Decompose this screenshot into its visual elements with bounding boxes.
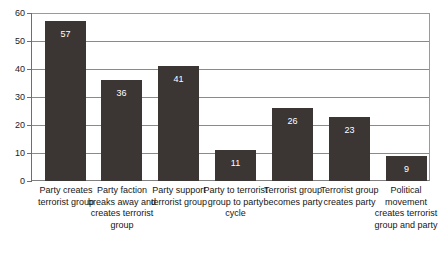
y-axis-label-10: 10 <box>0 149 25 158</box>
bar-5[interactable]: 23 <box>329 117 370 181</box>
bar-4[interactable]: 26 <box>272 108 313 181</box>
bar-0[interactable]: 57 <box>45 21 86 181</box>
x-axis-label-6: Political movement creates terrorist gro… <box>373 185 439 231</box>
y-tick-0 <box>27 181 31 182</box>
y-axis-label-0: 0 <box>0 177 25 186</box>
bar-value-5: 23 <box>329 126 370 135</box>
bar-value-1: 36 <box>101 89 142 98</box>
bar-value-3: 11 <box>215 159 256 168</box>
bar-value-0: 57 <box>45 30 86 39</box>
y-axis-label-20: 20 <box>0 121 25 130</box>
bar-value-6: 9 <box>386 165 427 174</box>
y-axis-label-40: 40 <box>0 65 25 74</box>
y-axis-label-60: 60 <box>0 9 25 18</box>
y-axis-label-50: 50 <box>0 37 25 46</box>
x-axis-label-5: Terrorist group creates party <box>318 185 381 208</box>
x-axis-label-4: Terrorist group becomes party <box>260 185 326 208</box>
x-axis-labels: Party creates terrorist group Party fact… <box>31 185 430 267</box>
bar-3[interactable]: 11 <box>215 150 256 181</box>
bar-1[interactable]: 36 <box>101 80 142 181</box>
y-axis-label-30: 30 <box>0 93 25 102</box>
bars-layer: 57 36 41 11 26 23 9 <box>31 13 430 181</box>
bar-6[interactable]: 9 <box>386 156 427 181</box>
bar-value-4: 26 <box>272 117 313 126</box>
bar-2[interactable]: 41 <box>158 66 199 181</box>
bar-chart: 60 50 40 30 20 10 0 57 36 41 11 26 23 9 … <box>0 0 448 269</box>
bar-value-2: 41 <box>158 75 199 84</box>
